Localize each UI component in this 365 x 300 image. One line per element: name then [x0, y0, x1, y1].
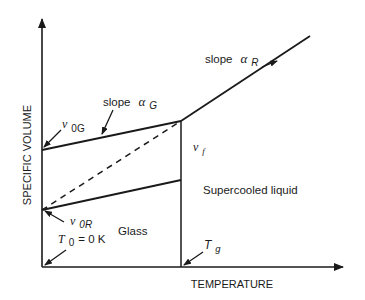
liquid-line-alpha-r: [181, 36, 310, 121]
x-axis-label: TEMPERATURE: [191, 278, 273, 290]
region-glass-label: Glass: [118, 225, 148, 237]
t0-label: T 0 = 0 K: [58, 229, 106, 249]
glass-transition-diagram: SPECIFIC VOLUME TEMPERATURE slope α G sl…: [0, 0, 365, 300]
t0-arrow: [45, 250, 66, 265]
slope-alpha-r-label: slope α R: [205, 49, 259, 68]
y-axis-label: SPECIFIC VOLUME: [21, 105, 33, 205]
v0g-arrow: [44, 130, 61, 147]
slope-alpha-g-label: slope α G: [103, 92, 157, 111]
tg-label: T g: [204, 235, 221, 254]
v0g-label: v 0G: [62, 114, 85, 134]
v0r-arrow: [45, 211, 64, 222]
vf-label: v f: [193, 137, 206, 156]
lower-glass-line: [42, 180, 181, 210]
slope-alpha-g-arrow: [102, 110, 113, 134]
tg-arrow: [184, 252, 203, 265]
dashed-extrapolation-line: [42, 121, 181, 210]
v0r-label: v 0R: [70, 211, 92, 230]
region-supercooled-label: Supercooled liquid: [203, 184, 298, 196]
